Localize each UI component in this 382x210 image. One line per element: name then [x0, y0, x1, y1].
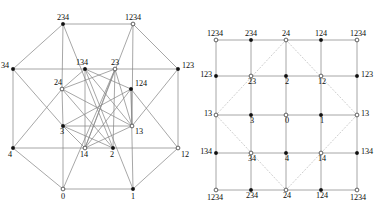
grid-node-label-r12: 3 — [250, 116, 254, 125]
figure-root: 234123434134231232412431341421201 123423… — [0, 0, 382, 210]
grid-node-label-r22: 0 — [285, 116, 289, 125]
node-1234[interactable] — [131, 22, 135, 26]
edge-24-3 — [62, 89, 63, 126]
grid-node-label-r23: 4 — [285, 154, 289, 163]
grid-node-r02-13[interactable] — [214, 113, 218, 117]
grid-node-label-r24: 24 — [283, 191, 291, 200]
grid-node-label-r41: 123 — [361, 70, 373, 79]
grid-node-r00-1234[interactable] — [214, 38, 218, 42]
node-12[interactable] — [176, 146, 180, 150]
grid-node-r40-1234[interactable] — [355, 38, 359, 42]
grid-node-label-r04: 1234 — [207, 193, 223, 202]
edge-24-2 — [62, 89, 113, 148]
grid-node-label-r33: 14 — [318, 154, 326, 163]
edge-1-12 — [133, 148, 178, 189]
grid-node-label-r31: 12 — [318, 77, 326, 86]
node-label-1234: 1234 — [125, 13, 141, 22]
node-label-34: 34 — [1, 61, 9, 70]
grid-node-label-r21: 2 — [285, 77, 289, 86]
node-label-234: 234 — [57, 13, 69, 22]
grid-node-r10-234[interactable] — [249, 38, 252, 41]
grid-node-label-r44: 1234 — [350, 193, 366, 202]
node-13[interactable] — [130, 124, 134, 128]
edge-23-2 — [113, 69, 115, 148]
node-label-23: 23 — [111, 58, 119, 67]
grid-node-label-r11: 23 — [248, 77, 256, 86]
grid-node-label-r20: 24 — [282, 29, 290, 38]
grid-node-label-r03: 134 — [200, 147, 212, 156]
edge-134-24 — [62, 69, 85, 89]
panel-right-grid-diagram: 1234234241241234123232121231330113134344… — [191, 0, 382, 210]
grid-node-label-r40: 1234 — [350, 29, 366, 38]
panel-left-octagonal-diagram: 234123434134231232412431341421201 — [0, 0, 191, 210]
edge-3-14 — [63, 126, 85, 148]
grid-node-label-r14: 234 — [246, 191, 258, 200]
grid-node-label-r01: 123 — [200, 70, 212, 79]
grid-node-r41-123[interactable] — [355, 74, 358, 77]
grid-node-label-r13: 34 — [248, 154, 256, 163]
grid-node-r03-134[interactable] — [214, 151, 217, 154]
edge-234-24 — [62, 24, 63, 89]
grid-node-label-r43: 134 — [361, 147, 373, 156]
edge-23-24 — [62, 69, 115, 89]
grid-node-label-r02: 13 — [204, 109, 212, 118]
grid-node-label-r34: 124 — [316, 191, 328, 200]
node-label-14: 14 — [80, 150, 88, 159]
edge-4-24 — [13, 89, 62, 148]
grid-node-r44-1234[interactable] — [355, 188, 359, 192]
grid-node-r04-1234[interactable] — [214, 188, 218, 192]
edge-4-0 — [13, 148, 63, 189]
node-1[interactable] — [131, 187, 134, 190]
grid-node-r42-13[interactable] — [355, 113, 359, 117]
node-23[interactable] — [113, 67, 117, 71]
node-34[interactable] — [11, 67, 14, 70]
node-label-0: 0 — [61, 192, 65, 201]
grid-node-label-r32: 1 — [320, 116, 324, 125]
left-graph-svg: 234123434134231232412431341421201 — [0, 0, 191, 210]
node-123[interactable] — [176, 67, 179, 70]
node-124[interactable] — [129, 87, 132, 90]
node-134[interactable] — [83, 67, 86, 70]
node-label-24: 24 — [54, 78, 62, 87]
edge-124-14 — [85, 89, 131, 148]
node-label-124: 124 — [135, 79, 147, 88]
grid-node-r01-123[interactable] — [214, 74, 217, 77]
edge-234-34 — [13, 24, 63, 69]
edge-23-13 — [115, 69, 132, 126]
grid-node-label-r10: 234 — [245, 29, 257, 38]
right-graph-svg: 1234234241241234123232121231330113134344… — [191, 0, 382, 210]
node-234[interactable] — [61, 22, 64, 25]
edge-0-23 — [63, 69, 115, 189]
node-label-1: 1 — [131, 192, 135, 201]
grid-node-r20-24[interactable] — [284, 38, 288, 42]
edge-1234-123 — [133, 24, 178, 69]
node-0[interactable] — [61, 187, 65, 191]
node-label-4: 4 — [8, 150, 12, 159]
edge-1234-13 — [132, 24, 133, 126]
node-label-13: 13 — [135, 127, 143, 136]
edge-124-13 — [131, 89, 132, 126]
node-label-2: 2 — [110, 150, 114, 159]
grid-node-label-r30: 124 — [315, 29, 327, 38]
grid-node-r30-124[interactable] — [319, 38, 322, 41]
node-24[interactable] — [60, 87, 64, 91]
grid-node-label-r42: 13 — [361, 109, 369, 118]
node-label-12: 12 — [181, 150, 189, 159]
edge-123-13 — [132, 69, 178, 126]
node-label-134: 134 — [76, 58, 88, 67]
node-label-3: 3 — [60, 127, 64, 136]
grid-node-label-r00: 1234 — [207, 29, 223, 38]
grid-node-r43-134[interactable] — [355, 151, 358, 154]
left-edge-group — [13, 24, 178, 189]
